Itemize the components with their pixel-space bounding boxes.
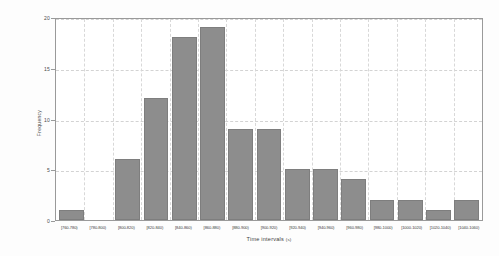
bar — [115, 159, 140, 220]
x-axis-title: Time intervals (s) — [55, 236, 483, 242]
y-axis-tick-mark — [51, 221, 55, 222]
bar — [341, 179, 366, 220]
x-axis-tick-label: [940-960) — [312, 223, 341, 232]
bar-slot — [227, 19, 255, 220]
bar — [398, 200, 423, 220]
bar-slot — [453, 19, 481, 220]
bar — [172, 37, 197, 220]
bar-slot — [198, 19, 226, 220]
bar-slot — [255, 19, 283, 220]
bar — [313, 169, 338, 220]
y-axis-title: Frequency — [36, 78, 42, 168]
x-axis-title-text: Time intervals — [247, 236, 284, 242]
bar-slot — [283, 19, 311, 220]
bar-slot — [368, 19, 396, 220]
bar-slot — [340, 19, 368, 220]
bar-slot — [311, 19, 339, 220]
bar-slot — [424, 19, 452, 220]
x-axis-tick-label: [860-880) — [198, 223, 227, 232]
bar-slot — [170, 19, 198, 220]
histogram-figure: Frequency 05101520 [760-780)[780-800)[80… — [0, 0, 499, 256]
x-axis-tick-label: [780-800) — [84, 223, 113, 232]
x-axis-unit: (s) — [286, 237, 292, 242]
x-axis-tick-label: [880-900) — [226, 223, 255, 232]
y-axis-tick-label: 15 — [0, 66, 50, 72]
x-axis-tick-label: [840-860) — [169, 223, 198, 232]
x-axis-tick-label: [820-840) — [141, 223, 170, 232]
x-axis-tick-label: [900-920) — [255, 223, 284, 232]
bar — [426, 210, 451, 220]
x-axis-tick-labels: [760-780)[780-800)[800-820)[820-840)[840… — [55, 223, 483, 232]
bar-slot — [142, 19, 170, 220]
x-axis-tick-label: [1020-1040) — [426, 223, 455, 232]
bar — [285, 169, 310, 220]
bar — [200, 27, 225, 220]
x-axis-tick-label: [1040-1060) — [454, 223, 483, 232]
bar-slot — [114, 19, 142, 220]
plot-area — [55, 18, 483, 221]
y-axis-tick-label: 20 — [0, 15, 50, 21]
y-axis-tick-label: 10 — [0, 117, 50, 123]
x-axis-tick-label: [1000-1020) — [397, 223, 426, 232]
x-axis-tick-label: [920-940) — [283, 223, 312, 232]
bar — [370, 200, 395, 220]
x-axis-tick-label: [800-820) — [112, 223, 141, 232]
bar — [257, 129, 282, 220]
bar-slot — [57, 19, 85, 220]
bar-slot — [396, 19, 424, 220]
bar — [59, 210, 84, 220]
x-axis-tick-label: [980-1000) — [369, 223, 398, 232]
y-axis-tick-label: 0 — [0, 218, 50, 224]
y-axis-tick-label: 5 — [0, 167, 50, 173]
bar — [228, 129, 253, 220]
bar — [454, 200, 479, 220]
bar — [144, 98, 169, 220]
bar-series — [56, 19, 482, 220]
x-axis-tick-label: [760-780) — [55, 223, 84, 232]
bar-slot — [85, 19, 113, 220]
x-axis-tick-label: [960-980) — [340, 223, 369, 232]
